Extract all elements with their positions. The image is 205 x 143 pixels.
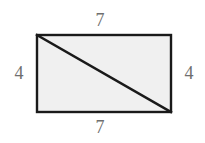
side-label-bottom: 7 — [78, 118, 122, 136]
side-label-top: 7 — [78, 11, 122, 29]
figure-container: 7 7 4 4 — [0, 0, 205, 143]
side-label-left: 4 — [6, 64, 32, 82]
side-label-right: 4 — [176, 64, 202, 82]
